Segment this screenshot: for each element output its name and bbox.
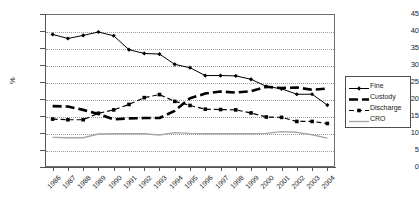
y-axis-line <box>45 14 46 167</box>
chart-legend: FineCustodyDischargeCRO <box>345 76 411 128</box>
x-axis-tick <box>144 167 145 171</box>
x-axis-tick <box>221 167 222 171</box>
x-axis-tick <box>236 167 237 171</box>
y-axis-tick-label: 45 <box>385 10 419 18</box>
y-axis-tick <box>40 150 45 151</box>
gridline <box>46 134 334 135</box>
gridline <box>46 100 334 101</box>
y-axis-tick-label: 0 <box>385 163 419 171</box>
x-axis-tick <box>159 167 160 171</box>
legend-swatch-icon <box>348 102 370 113</box>
y-axis-tick-label: 5 <box>385 146 419 154</box>
y-axis-tick <box>40 116 45 117</box>
y-axis-tick <box>40 82 45 83</box>
y-axis-tick <box>40 14 45 15</box>
y-axis-title: % <box>8 77 17 84</box>
x-axis-tick <box>327 167 328 171</box>
legend-swatch-icon <box>348 113 370 124</box>
legend-item-custody[interactable]: Custody <box>348 91 408 102</box>
legend-item-label: Custody <box>370 93 396 101</box>
legend-item-fine[interactable]: Fine <box>348 80 408 91</box>
y-axis-tick-label: 10 <box>385 129 419 137</box>
y-axis-tick-label: 40 <box>385 27 419 35</box>
gridline <box>46 151 334 152</box>
x-axis-tick <box>251 167 252 171</box>
y-axis-tick <box>40 133 45 134</box>
legend-swatch-icon <box>348 80 370 91</box>
x-axis-tick <box>266 167 267 171</box>
gridline <box>46 49 334 50</box>
y-axis-tick <box>40 65 45 66</box>
x-axis-tick <box>282 167 283 171</box>
y-axis-tick-label: 30 <box>385 61 419 69</box>
gridline <box>46 32 334 33</box>
x-axis-tick <box>98 167 99 171</box>
y-axis-tick <box>40 99 45 100</box>
legend-item-label: Discharge <box>370 104 402 112</box>
x-axis-tick <box>83 167 84 171</box>
line-chart: 051015202530354045 % 1986198719881989199… <box>0 0 419 206</box>
x-axis-tick <box>114 167 115 171</box>
gridline <box>46 117 334 118</box>
x-axis-tick <box>205 167 206 171</box>
legend-item-discharge[interactable]: Discharge <box>348 102 408 113</box>
y-axis-tick <box>40 48 45 49</box>
x-axis-tick <box>68 167 69 171</box>
x-axis-tick <box>297 167 298 171</box>
plot-area <box>45 14 335 167</box>
legend-item-label: Fine <box>370 82 384 90</box>
y-axis-tick <box>40 31 45 32</box>
y-axis-tick-label: 35 <box>385 44 419 52</box>
x-axis-tick <box>129 167 130 171</box>
x-axis-tick <box>175 167 176 171</box>
legend-item-cro[interactable]: CRO <box>348 113 408 124</box>
gridline <box>46 83 334 84</box>
gridline <box>46 66 334 67</box>
x-axis-tick <box>312 167 313 171</box>
legend-swatch-icon <box>348 91 370 102</box>
legend-item-label: CRO <box>370 115 386 123</box>
x-axis-tick <box>190 167 191 171</box>
x-axis-tick <box>53 167 54 171</box>
